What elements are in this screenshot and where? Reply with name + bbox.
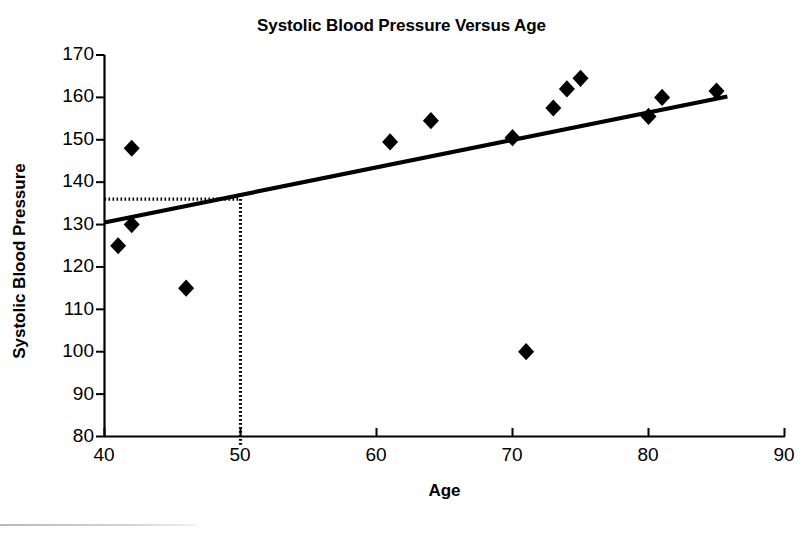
data-point-marker	[545, 99, 561, 116]
data-point-marker	[382, 133, 398, 150]
x-axis-ticks	[105, 428, 785, 437]
data-point-marker	[654, 89, 670, 106]
scan-artifact-line	[0, 524, 197, 526]
reference-lines	[105, 199, 241, 445]
axis-spines	[104, 55, 785, 437]
data-point-marker	[178, 280, 194, 297]
data-point-marker	[423, 112, 439, 129]
trend-line	[105, 97, 728, 223]
data-point-marker	[505, 129, 521, 146]
data-point-marker	[518, 343, 534, 360]
plot-area	[0, 0, 803, 534]
data-point-marker	[110, 237, 126, 254]
data-point-marker	[559, 80, 575, 97]
y-axis-ticks	[96, 55, 105, 437]
data-points	[110, 70, 724, 361]
data-point-marker	[573, 70, 589, 87]
chart-figure: Systolic Blood Pressure Versus Age Systo…	[0, 0, 803, 534]
data-point-marker	[124, 140, 140, 157]
trend-line-segment	[105, 97, 728, 223]
